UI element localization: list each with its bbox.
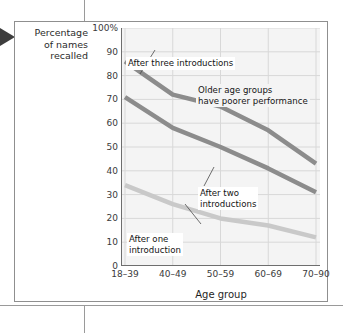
y-axis-title-line-3: recalled [10, 50, 88, 62]
x-axis-tick-label: 50–59 [207, 269, 234, 279]
y-axis-tick-label: 80 [86, 71, 118, 81]
x-axis-tick-label: 18–39 [111, 269, 138, 279]
annotation-older-line-1: Older age groups [198, 85, 308, 96]
y-axis-tick-label: 40 [86, 166, 118, 176]
x-axis-tick-label: 70–90 [302, 269, 329, 279]
y-axis-tick-label: 30 [86, 190, 118, 200]
y-axis-tick-label: 70 [86, 94, 118, 104]
annotation-after-two-introductions: After two introductions [198, 187, 258, 210]
y-axis-title-line-1: Percentage [10, 27, 88, 39]
page-rule-vertical-top [84, 0, 85, 22]
page-rule-horizontal [0, 305, 343, 306]
y-axis-title: Percentage of names recalled [10, 27, 88, 62]
x-axis-tick-labels: 18–3940–4950–5960–6970–90 [0, 269, 343, 289]
y-axis-tick-label: 60 [86, 118, 118, 128]
x-axis-title: Age group [121, 289, 321, 300]
y-axis-tick-labels: 100%9080706050403020100 [86, 0, 118, 281]
y-axis-tick-label: 90 [86, 47, 118, 57]
annotation-leader-line [204, 167, 214, 186]
y-axis-title-line-2: of names [10, 39, 88, 51]
y-axis-tick-label: 20 [86, 213, 118, 223]
annotation-one-line-1: After one [129, 234, 181, 245]
annotation-one-line-2: introduction [129, 245, 181, 256]
annotation-after-three-introductions: After three introductions [126, 57, 235, 70]
page-rule-vertical-bottom [84, 305, 85, 333]
y-axis-tick-label: 10 [86, 237, 118, 247]
annotation-after-one-introduction: After one introduction [127, 233, 183, 256]
x-axis-tick-label: 40–49 [159, 269, 186, 279]
y-axis-tick-label: 100% [86, 23, 118, 33]
annotation-two-line-1: After two [200, 188, 256, 199]
annotation-two-line-2: introductions [200, 199, 256, 210]
annotation-older-line-2: have poorer performance [198, 96, 308, 107]
annotation-older-age-groups: Older age groups have poorer performance [196, 84, 310, 107]
x-axis-tick-label: 60–69 [255, 269, 282, 279]
y-axis-tick-label: 50 [86, 142, 118, 152]
